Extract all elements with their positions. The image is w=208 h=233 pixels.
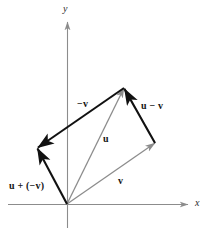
x-axis-label: x xyxy=(195,198,199,208)
label-v: v xyxy=(118,176,123,186)
vector-u-plus-neg-v-arrow xyxy=(38,149,68,205)
vector-diagram-figure: u + (−v) −v u v u − v x y xyxy=(0,0,208,233)
vector-diagram-canvas xyxy=(0,0,208,233)
vector-neg-v-arrow xyxy=(38,88,124,148)
vector-u-minus-v-arrow xyxy=(125,89,156,143)
label-neg-v: −v xyxy=(77,99,88,109)
black-vectors-group xyxy=(38,88,156,204)
label-u-minus-v: u − v xyxy=(141,101,163,111)
label-u: u xyxy=(103,134,109,144)
axes-group xyxy=(8,22,188,228)
y-axis-label: y xyxy=(63,4,67,14)
vector-v-arrow xyxy=(67,143,155,204)
label-u-plus-neg-v: u + (−v) xyxy=(9,181,44,191)
vector-u-arrow xyxy=(67,88,124,204)
